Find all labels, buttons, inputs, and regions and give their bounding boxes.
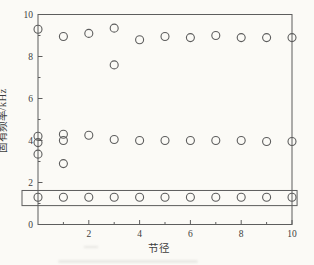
data-point-marker	[263, 138, 271, 146]
data-point-marker	[212, 32, 220, 40]
data-point-marker	[212, 193, 220, 201]
x-tick-label: 10	[287, 229, 297, 239]
data-point-marker	[110, 24, 118, 32]
data-point-marker	[237, 137, 245, 145]
y-tick-label: 8	[28, 52, 33, 62]
data-point-marker	[85, 131, 93, 139]
data-point-marker	[161, 33, 169, 41]
data-point-marker	[136, 193, 144, 201]
data-point-marker	[237, 193, 245, 201]
data-point-marker	[161, 137, 169, 145]
data-point-marker	[110, 61, 118, 69]
x-tick-labels: 246810	[86, 229, 297, 239]
series-upper-mode-family	[34, 24, 296, 69]
data-point-marker	[59, 160, 67, 168]
scan-artifact-small	[84, 246, 98, 248]
data-point-marker	[110, 135, 118, 143]
y-tick-labels: 0246810	[24, 10, 34, 230]
x-axis-title: 节径	[148, 240, 170, 255]
x-tick-label: 8	[239, 229, 244, 239]
series-middle-mode-family	[34, 130, 296, 167]
data-point-marker	[110, 193, 118, 201]
data-points	[34, 24, 296, 201]
data-point-marker	[263, 34, 271, 42]
x-tick-label: 2	[86, 229, 91, 239]
y-tick-label: 6	[28, 94, 33, 104]
data-point-marker	[186, 34, 194, 42]
data-point-marker	[136, 137, 144, 145]
data-point-marker	[186, 193, 194, 201]
series-lower-mode-family	[34, 193, 296, 201]
data-point-marker	[59, 33, 67, 41]
data-point-marker	[85, 29, 93, 37]
data-point-marker	[136, 36, 144, 44]
data-point-marker	[212, 137, 220, 145]
y-tick-label: 2	[28, 178, 33, 188]
x-tick-label: 4	[137, 229, 142, 239]
data-point-marker	[186, 137, 194, 145]
data-point-marker	[85, 193, 93, 201]
chart-canvas: 2468100246810	[0, 0, 314, 265]
data-point-marker	[263, 193, 271, 201]
y-tick-label: 4	[28, 136, 33, 146]
data-point-marker	[237, 34, 245, 42]
data-point-marker	[161, 193, 169, 201]
y-tick-label: 10	[24, 10, 34, 20]
data-point-marker	[59, 193, 67, 201]
y-axis-title: 固有频率/kHz	[0, 88, 9, 152]
x-tick-label: 6	[188, 229, 193, 239]
scan-artifact	[58, 260, 198, 263]
mode-frequency-chart: 2468100246810 节径 固有频率/kHz	[0, 0, 314, 265]
y-tick-label: 0	[28, 220, 33, 230]
